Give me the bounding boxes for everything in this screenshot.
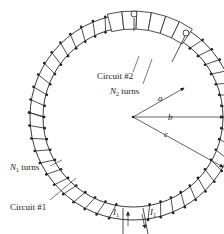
- terminal-left-icon: [131, 11, 137, 17]
- leader-circuit2: [133, 56, 139, 72]
- radius-dimensions: [132, 88, 223, 167]
- label-i1-left: I1: [112, 207, 119, 218]
- label-b: b: [168, 112, 173, 122]
- circuit1-leads: [123, 208, 148, 234]
- toroid-diagram: Circuit #2 N2 turns a b c N1 turns Circu…: [0, 0, 224, 234]
- label-n1-turns: N1 turns: [9, 162, 40, 173]
- label-circuit2: Circuit #2: [97, 71, 133, 81]
- label-c: c: [164, 129, 168, 139]
- leader-circuit1: [50, 178, 76, 200]
- primary-winding: [28, 15, 224, 221]
- terminal-right-icon: [183, 30, 189, 36]
- radius-c-line: [133, 117, 223, 167]
- label-n2-turns: N2 turns: [109, 86, 140, 97]
- label-a: a: [158, 93, 163, 103]
- label-circuit1: Circuit #1: [10, 202, 46, 212]
- secondary-winding: [107, 11, 192, 44]
- leader-n2: [143, 59, 152, 84]
- label-i1-right: I1: [149, 207, 156, 218]
